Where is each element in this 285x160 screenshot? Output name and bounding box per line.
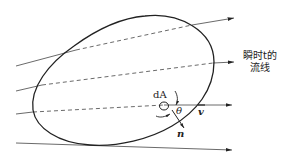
streamline-caption-line1: 瞬时t的	[240, 50, 280, 62]
streamline-caption-line2: 流线	[240, 62, 280, 74]
normal-label: n	[177, 128, 184, 139]
rotation-arrow-bottom	[156, 114, 170, 117]
area-element-circle	[160, 102, 169, 110]
rotation-arrow-top	[175, 91, 177, 105]
angle-label: θ	[176, 105, 182, 116]
control-volume-boundary	[33, 15, 214, 145]
velocity-label: v	[198, 106, 204, 117]
streamline-caption: 瞬时t的 流线	[240, 50, 280, 74]
area-element-label: dA	[153, 89, 167, 100]
streamline-2	[16, 62, 234, 91]
control-volume-diagram: dA n v θ	[0, 0, 285, 160]
streamline-1	[16, 18, 234, 66]
streamline-4	[16, 143, 232, 150]
